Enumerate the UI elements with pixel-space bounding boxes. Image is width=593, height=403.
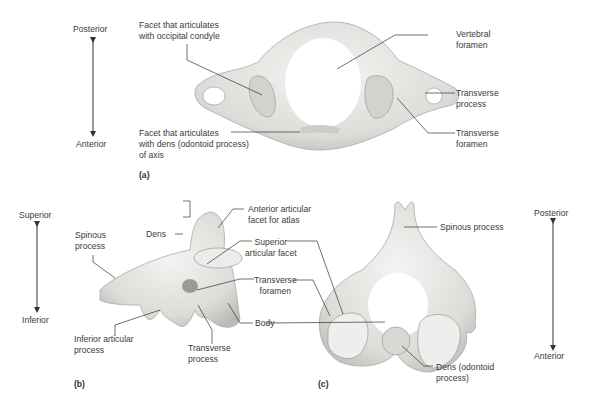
transverse-foramen-label-b: Transverse foramen — [254, 275, 297, 297]
dens-facet-label: Facet that articulates with dens (odonto… — [139, 128, 249, 161]
vertebral-foramen-label: Vertebral foramen — [456, 29, 490, 51]
superior-articular-facet-label: Superior articular facet — [245, 237, 297, 259]
orientation-anterior-label: Anterior — [76, 139, 106, 150]
dens-odontoid-label-c: Dens (odontoid process) — [436, 362, 494, 384]
panel-a-label: (a) — [139, 170, 150, 180]
orientation-posterior-label-c: Posterior — [534, 208, 568, 219]
orientation-inferior-label: Inferior — [22, 315, 49, 326]
spinous-process-label-b: Spinous process — [75, 230, 106, 252]
spinous-process-label-c: Spinous process — [440, 222, 504, 233]
dens-label-b: Dens — [146, 229, 166, 240]
orientation-anterior-label-c: Anterior — [534, 351, 564, 362]
transverse-foramen-label-a: Transverse foramen — [456, 128, 499, 150]
occipital-facet-label: Facet that articulates with occipital co… — [139, 20, 220, 42]
axis-lateral-view — [100, 212, 242, 327]
anterior-articular-facet-label: Anterior articular facet for atlas — [248, 204, 311, 226]
body-label: Body — [255, 318, 275, 329]
transverse-process-label-a: Transverse process — [456, 88, 499, 110]
inferior-articular-process-label: Inferior articular process — [74, 334, 134, 356]
panel-c-label: (c) — [318, 379, 329, 389]
orientation-posterior-label: Posterior — [73, 24, 107, 35]
panel-b-label: (b) — [74, 379, 85, 389]
transverse-process-label-b: Transverse process — [188, 343, 231, 365]
orientation-superior-label: Superior — [19, 210, 51, 221]
